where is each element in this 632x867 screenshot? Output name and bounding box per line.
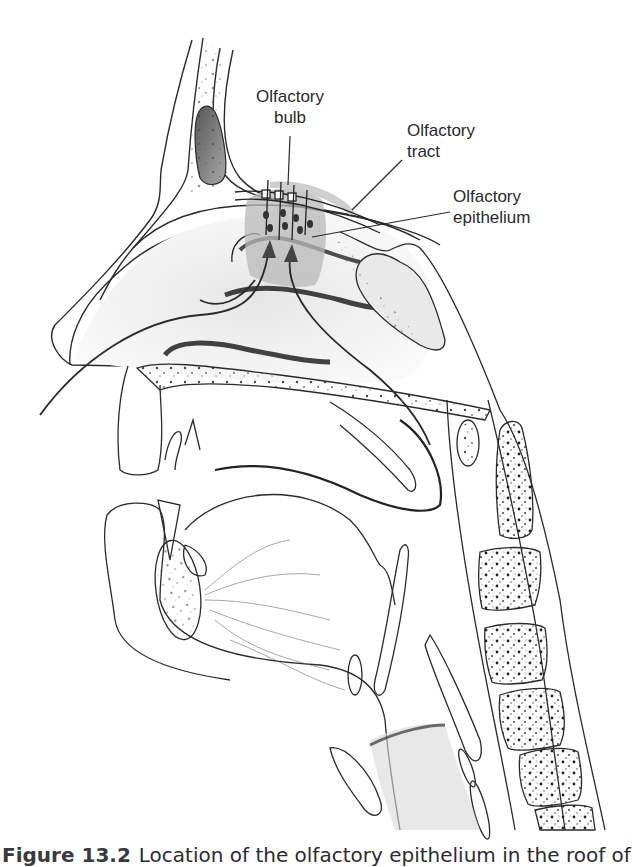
label-olfactory-tract-line1: Olfactory bbox=[407, 120, 475, 141]
vertebra-c3 bbox=[479, 548, 541, 611]
label-olfactory-tract-line2: tract bbox=[407, 141, 475, 162]
vertebra-c4 bbox=[485, 624, 547, 685]
figure-caption: Figure 13.2Location of the olfactory epi… bbox=[2, 843, 631, 867]
adenoid-stipple bbox=[459, 423, 477, 463]
trachea-shading bbox=[370, 724, 480, 830]
olfactory-region-highlight bbox=[245, 189, 326, 287]
vertebra-c2 bbox=[496, 421, 533, 538]
soft-palate bbox=[330, 402, 416, 491]
label-olfactory-epithelium-line2: epithelium bbox=[453, 207, 531, 228]
label-olfactory-bulb-line1: Olfactory bbox=[250, 86, 330, 107]
leader-line-bulb bbox=[288, 136, 290, 185]
label-olfactory-epithelium-line1: Olfactory bbox=[453, 186, 531, 207]
figure-caption-text: Location of the olfactory epithelium in … bbox=[139, 843, 631, 867]
vertebra-c7 bbox=[535, 805, 595, 830]
vertebra-c6 bbox=[519, 748, 582, 806]
mandible-bone bbox=[152, 542, 204, 639]
figure-number: Figure 13.2 bbox=[2, 843, 131, 867]
label-olfactory-bulb-line2: bulb bbox=[250, 107, 330, 128]
tongue-jaw bbox=[105, 495, 400, 830]
vertebra-c5 bbox=[499, 688, 564, 750]
label-olfactory-bulb: Olfactory bulb bbox=[250, 86, 330, 128]
cervical-vertebrae bbox=[479, 421, 595, 830]
label-olfactory-epithelium: Olfactory epithelium bbox=[453, 186, 531, 228]
label-olfactory-tract: Olfactory tract bbox=[407, 120, 475, 162]
leader-line-tract bbox=[352, 160, 402, 210]
tongue-fibers bbox=[205, 540, 345, 690]
